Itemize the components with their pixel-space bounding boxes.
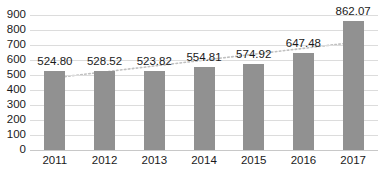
bar [194,67,215,150]
y-axis-tick-label: 600 [0,54,26,66]
y-axis-tick-label: 0 [0,144,26,156]
bar-value-label: 862.07 [336,5,371,17]
y-axis: 9008007006005004003002001000 [0,15,26,150]
bar-value-label: 574.92 [236,48,271,60]
y-axis-tick-label: 200 [0,114,26,126]
x-axis: 2011201220132014201520162017 [30,153,378,173]
bar-value-label: 554.81 [186,51,221,63]
y-axis-tick-label: 800 [0,24,26,36]
y-axis-tick-label: 700 [0,39,26,51]
x-axis-tick-label: 2017 [340,153,366,167]
axis-line-zero [30,150,378,151]
bar [293,53,314,150]
y-axis-tick-label: 100 [0,129,26,141]
bar-value-label: 524.80 [37,55,72,67]
bar-chart: 9008007006005004003002001000 20112012201… [0,0,387,184]
bar [94,71,115,150]
x-axis-tick-label: 2015 [241,153,267,167]
y-axis-tick-label: 900 [0,9,26,21]
y-axis-tick-label: 400 [0,84,26,96]
bar-value-label: 528.52 [87,55,122,67]
bar-value-label: 647.48 [286,37,321,49]
y-axis-tick-label: 300 [0,99,26,111]
bar [44,71,65,150]
x-axis-tick-label: 2016 [291,153,317,167]
x-axis-tick-label: 2011 [42,153,67,167]
bar [243,64,264,150]
x-axis-tick-label: 2013 [141,153,167,167]
gridline [30,15,378,16]
x-axis-tick-label: 2014 [191,153,217,167]
gridline [30,45,378,46]
bar [343,21,364,150]
bar [144,71,165,150]
y-axis-tick-label: 500 [0,69,26,81]
bar-value-label: 523.82 [137,55,172,67]
plot-area [30,15,378,150]
x-axis-tick-label: 2012 [92,153,118,167]
gridline [30,30,378,31]
